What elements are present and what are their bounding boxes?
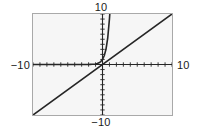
plot-canvas: [33, 14, 172, 115]
x-axis-min-label: −10: [2, 59, 30, 71]
x-axis-max-label: 10: [177, 59, 201, 71]
plot-frame: [32, 13, 173, 116]
graph-figure: 10 −10 10 −10: [0, 0, 202, 132]
y-axis-min-label: −10: [0, 116, 202, 128]
y-axis-max-label: 10: [0, 1, 202, 13]
